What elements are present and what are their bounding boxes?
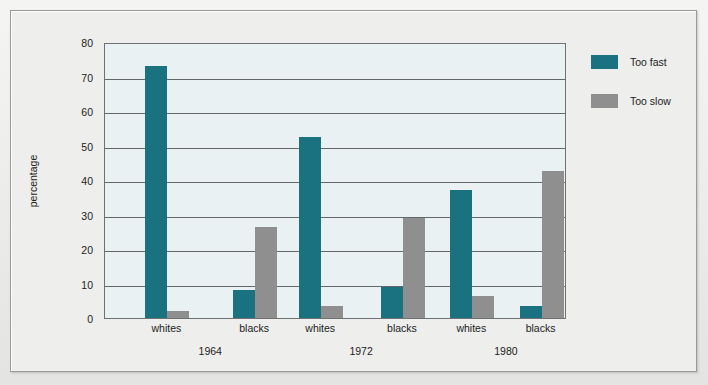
x-axis-group-label: 1980 (494, 345, 517, 357)
y-axis-title: percentage (25, 43, 41, 319)
legend-color-swatch (591, 55, 618, 69)
y-axis-tick-label: 60 (81, 106, 93, 118)
y-axis-tick-label: 70 (81, 72, 93, 84)
x-axis-subgroup-label: whites (456, 322, 486, 334)
legend-item[interactable]: Too slow (591, 94, 691, 108)
legend-item[interactable]: Too fast (591, 55, 691, 69)
bar (381, 287, 403, 318)
bar (450, 190, 472, 318)
y-axis-title-label: percentage (27, 155, 39, 208)
bar (542, 171, 564, 318)
legend-item-label: Too slow (630, 95, 671, 107)
bar (403, 218, 425, 318)
x-axis-subgroup-label: whites (151, 322, 181, 334)
legend-color-swatch (591, 94, 618, 108)
x-axis-group-label: 1972 (349, 345, 372, 357)
x-axis-group-label: 1964 (199, 345, 222, 357)
y-axis-tick-label: 50 (81, 141, 93, 153)
y-axis-tick-label: 40 (81, 175, 93, 187)
bar (321, 306, 343, 318)
bar (472, 296, 494, 318)
bar (167, 311, 189, 318)
bar (520, 306, 542, 318)
y-axis-tick-label: 80 (81, 37, 93, 49)
x-axis-group-labels: 196419721980 (104, 345, 566, 361)
legend-item-label: Too fast (630, 56, 667, 68)
x-axis-subgroup-label: whites (305, 322, 335, 334)
bar (299, 137, 321, 318)
x-axis-subgroup-label: blacks (239, 322, 269, 334)
x-axis-subgroup-label: blacks (387, 322, 417, 334)
bar (233, 290, 255, 318)
y-axis-tick-label: 20 (81, 244, 93, 256)
page-background: percentage 01020304050607080 whitesblack… (0, 0, 708, 385)
bar (145, 66, 167, 318)
y-axis-ticks: 01020304050607080 (51, 43, 99, 319)
bar (255, 227, 277, 318)
bar-series-container (105, 44, 565, 318)
x-axis-subgroup-labels: whitesblackswhitesblackswhitesblacks (104, 322, 566, 338)
y-axis-tick-label: 30 (81, 210, 93, 222)
plot-area (104, 43, 566, 319)
chart-legend: Too fastToo slow (591, 55, 691, 133)
chart-figure-frame: percentage 01020304050607080 whitesblack… (10, 10, 697, 372)
y-axis-tick-label: 0 (87, 313, 93, 325)
x-axis-subgroup-label: blacks (526, 322, 556, 334)
y-axis-tick-label: 10 (81, 279, 93, 291)
